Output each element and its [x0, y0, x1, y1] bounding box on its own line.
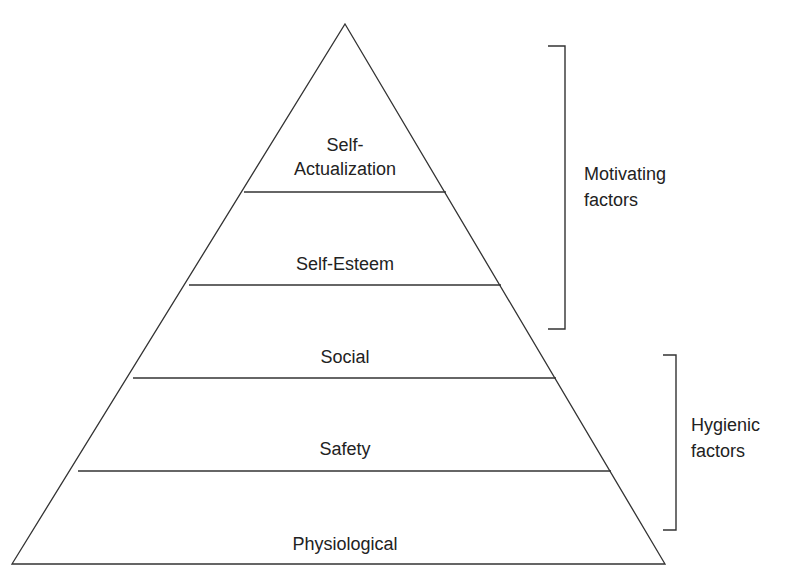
motivating-factors-label: Motivating factors: [584, 163, 666, 211]
level-physiological-label: Physiological: [292, 533, 397, 555]
motivating-factors-line2: factors: [584, 189, 666, 211]
motivating-factors-line1: Motivating: [584, 163, 666, 185]
level-self-actualization-line2: Actualization: [294, 158, 396, 180]
hygienic-factors-line2: factors: [691, 440, 760, 462]
hygienic-factors-line1: Hygienic: [691, 414, 760, 436]
pyramid-outline: [12, 24, 665, 564]
level-self-actualization-label: Self- Actualization: [294, 134, 396, 180]
level-safety-label: Safety: [319, 438, 370, 460]
level-social-label: Social: [320, 346, 369, 368]
level-self-actualization-line1: Self-: [294, 134, 396, 156]
hygienic-factors-label: Hygienic factors: [691, 414, 760, 462]
motivating-factors-bracket: [548, 46, 565, 329]
level-self-esteem-label: Self-Esteem: [296, 253, 394, 275]
pyramid-diagram: [0, 0, 790, 582]
hygienic-factors-bracket: [663, 355, 676, 530]
